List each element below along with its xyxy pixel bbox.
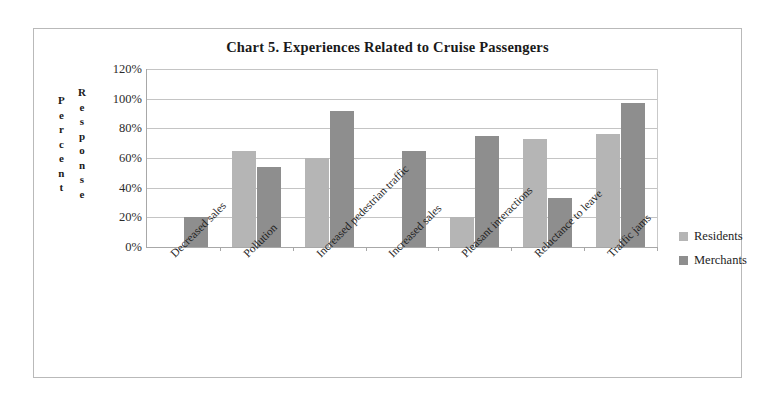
bar[interactable] xyxy=(257,167,281,247)
response-letter-2: s xyxy=(80,114,84,129)
y-axis-tick-labels: 120%100%80%60%40%20%0% xyxy=(94,63,142,247)
y-tick-label-20pct: 20% xyxy=(94,210,142,225)
bar[interactable] xyxy=(523,139,547,247)
legend-item[interactable]: Residents xyxy=(679,229,747,243)
plot-area xyxy=(146,69,657,248)
y-tick-label-80pct: 80% xyxy=(94,121,142,136)
legend-label: Merchants xyxy=(694,253,747,268)
bar-group xyxy=(220,69,293,247)
bar-group xyxy=(147,69,220,247)
bar-group xyxy=(438,69,511,247)
response-letter-4: o xyxy=(79,143,85,158)
bar[interactable] xyxy=(596,134,620,247)
bar-group xyxy=(584,69,657,247)
response-letter-1: e xyxy=(80,100,85,115)
response-letter-7: e xyxy=(80,187,85,202)
percent-letter-5: n xyxy=(58,166,64,181)
y-axis-title-percent: Percent xyxy=(58,93,65,195)
bar[interactable] xyxy=(305,158,329,247)
x-axis-tick xyxy=(584,247,585,251)
bar-group xyxy=(293,69,366,247)
legend-swatch-icon xyxy=(679,256,688,265)
plot-right-border xyxy=(657,69,658,247)
x-axis-tick xyxy=(511,247,512,251)
x-axis-tick xyxy=(293,247,294,251)
chart-title: Chart 5. Experiences Related to Cruise P… xyxy=(34,39,741,56)
percent-letter-0: P xyxy=(58,93,65,108)
response-letter-0: R xyxy=(78,85,86,100)
response-letter-6: s xyxy=(80,172,84,187)
y-tick-label-0pct: 0% xyxy=(94,240,142,255)
response-letter-3: p xyxy=(79,129,85,144)
bars-layer xyxy=(147,69,657,247)
bar[interactable] xyxy=(450,217,474,247)
chart-frame: Chart 5. Experiences Related to Cruise P… xyxy=(33,28,742,378)
y-tick-label-40pct: 40% xyxy=(94,180,142,195)
y-tick-label-120pct: 120% xyxy=(94,62,142,77)
bar-group xyxy=(366,69,439,247)
bar[interactable] xyxy=(184,217,208,247)
y-tick-label-100pct: 100% xyxy=(94,91,142,106)
bar[interactable] xyxy=(330,111,354,247)
y-tick-label-60pct: 60% xyxy=(94,151,142,166)
percent-letter-3: c xyxy=(59,137,64,152)
y-axis-title-response: Response xyxy=(78,85,86,201)
percent-letter-4: e xyxy=(59,151,64,166)
response-letter-5: n xyxy=(79,158,85,173)
x-axis-tick xyxy=(438,247,439,251)
bar[interactable] xyxy=(621,103,645,247)
bar[interactable] xyxy=(232,151,256,247)
bar-group xyxy=(511,69,584,247)
percent-letter-2: r xyxy=(59,122,64,137)
percent-letter-1: e xyxy=(59,108,64,123)
x-axis-tick xyxy=(220,247,221,251)
legend-label: Residents xyxy=(694,229,743,244)
legend-swatch-icon xyxy=(679,232,688,241)
bar[interactable] xyxy=(402,151,426,247)
percent-letter-6: t xyxy=(60,180,64,195)
bar[interactable] xyxy=(548,198,572,247)
legend-item[interactable]: Merchants xyxy=(679,253,747,267)
x-axis-tick xyxy=(657,247,658,251)
chart-legend: ResidentsMerchants xyxy=(679,229,747,277)
x-axis-tick xyxy=(366,247,367,251)
bar[interactable] xyxy=(475,136,499,247)
